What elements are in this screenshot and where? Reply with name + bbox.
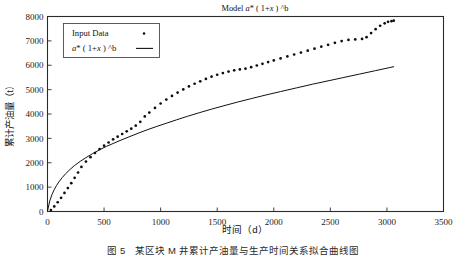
- data-point: [188, 85, 191, 88]
- y-tick-label: 7000: [26, 36, 45, 46]
- data-point: [361, 38, 364, 41]
- data-point: [130, 127, 133, 130]
- y-tick-label: 5000: [26, 85, 45, 95]
- model-curve: [48, 67, 394, 211]
- chart-canvas: Model a* ( 1+x ) ^b 05001000150020002500…: [0, 0, 467, 257]
- data-point: [272, 59, 275, 62]
- data-point: [199, 80, 202, 83]
- data-point: [387, 21, 390, 24]
- data-point: [267, 61, 270, 64]
- data-point: [53, 205, 56, 208]
- data-point: [279, 57, 282, 60]
- chart-title: Model a* ( 1+x ) ^b: [221, 4, 288, 13]
- y-tick-label: 0: [39, 207, 44, 217]
- data-point: [244, 67, 247, 70]
- data-point: [94, 152, 97, 155]
- data-point: [143, 115, 146, 118]
- data-point: [340, 40, 343, 43]
- data-point: [227, 70, 230, 73]
- data-point: [306, 49, 309, 52]
- data-point: [233, 69, 236, 72]
- data-point: [63, 192, 66, 195]
- data-point: [379, 24, 382, 27]
- y-tick-label: 1000: [26, 182, 45, 192]
- data-point: [98, 148, 101, 151]
- data-point: [125, 130, 128, 133]
- data-point: [67, 187, 70, 190]
- data-point: [354, 38, 357, 41]
- data-point: [193, 82, 196, 85]
- data-point: [300, 51, 303, 54]
- data-point: [365, 36, 368, 39]
- x-tick-label: 3000: [378, 217, 397, 227]
- data-point: [121, 133, 124, 136]
- data-point: [73, 177, 76, 180]
- data-point: [56, 201, 59, 204]
- data-point: [103, 144, 106, 147]
- y-tick-label: 2000: [26, 158, 45, 168]
- x-tick-label: 2500: [321, 217, 340, 227]
- data-point: [374, 28, 377, 31]
- data-point: [210, 75, 213, 78]
- data-point: [286, 55, 289, 58]
- data-point: [216, 73, 219, 76]
- data-point: [370, 32, 373, 35]
- data-point: [148, 111, 151, 114]
- data-point: [176, 91, 179, 94]
- data-point: [77, 171, 80, 174]
- data-point: [60, 197, 63, 200]
- data-point: [334, 41, 337, 44]
- y-tick-label: 8000: [26, 12, 45, 22]
- y-axis-title: 累计产油量（t）: [4, 81, 15, 147]
- y-tick-label: 3000: [26, 134, 45, 144]
- x-tick-label: 500: [97, 217, 111, 227]
- data-point: [107, 141, 110, 144]
- data-point: [80, 166, 83, 169]
- data-point: [50, 209, 53, 212]
- data-point: [347, 39, 350, 42]
- data-point: [139, 120, 142, 123]
- data-point: [70, 182, 73, 185]
- data-point: [134, 124, 137, 127]
- data-point: [159, 102, 162, 105]
- data-point: [392, 19, 395, 22]
- x-axis-title: 时间（d）: [222, 224, 267, 235]
- data-point: [171, 95, 174, 98]
- y-tick-label: 6000: [26, 60, 45, 70]
- figure-caption: 图 5 某区块 M 井累计产油量与生产时间关系拟合曲线图: [107, 245, 358, 256]
- x-tick-label: 0: [45, 217, 50, 227]
- data-point: [154, 107, 157, 110]
- data-point: [261, 62, 264, 65]
- data-point: [182, 88, 185, 91]
- x-tick-label: 1000: [152, 217, 171, 227]
- data-point: [89, 156, 92, 159]
- x-tick-label: 3500: [435, 217, 454, 227]
- data-point: [222, 72, 225, 75]
- data-point: [327, 43, 330, 46]
- data-point: [320, 45, 323, 48]
- legend-label-input-data: Input Data: [72, 28, 109, 38]
- data-point: [116, 135, 119, 138]
- data-point: [255, 64, 258, 67]
- data-point: [250, 66, 253, 69]
- figure-container: Model a* ( 1+x ) ^b 05001000150020002500…: [0, 0, 467, 257]
- data-point: [165, 98, 168, 101]
- data-point: [112, 138, 115, 141]
- data-point: [85, 160, 88, 163]
- data-point: [205, 78, 208, 81]
- legend-label-model: a* ( 1+x ) ^b: [72, 43, 116, 53]
- legend-marker-dot: [143, 32, 146, 35]
- y-tick-label: 4000: [26, 109, 45, 119]
- data-point: [238, 68, 241, 71]
- data-point: [293, 53, 296, 56]
- data-point: [390, 20, 393, 23]
- data-point: [383, 22, 386, 25]
- data-point: [313, 47, 316, 50]
- legend: Input Data a* ( 1+x ) ^b: [64, 24, 160, 58]
